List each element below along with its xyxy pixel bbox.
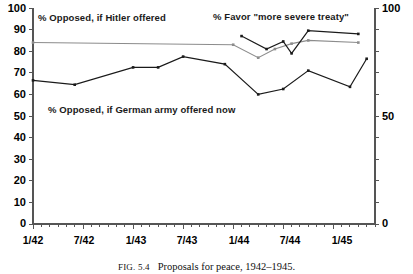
data-point — [182, 55, 185, 58]
figure-container: 100 90 80 70 60 50 40 30 20 10 0 100 50 … — [0, 0, 413, 274]
data-point — [73, 83, 76, 86]
data-point — [307, 29, 310, 32]
data-point — [307, 69, 310, 72]
y-tick-left-30: 30 — [0, 153, 26, 165]
figure-number: FIG. 5.4 — [118, 262, 150, 272]
y-tick-left-60: 60 — [0, 88, 26, 100]
data-point — [274, 48, 277, 51]
data-point — [232, 43, 235, 46]
y-tick-left-70: 70 — [0, 66, 26, 78]
y-tick-right-50: 50 — [382, 110, 412, 122]
data-point — [132, 66, 135, 69]
x-tick-7-42: 7/42 — [64, 234, 104, 246]
data-point — [257, 93, 260, 96]
data-point — [257, 56, 260, 59]
series-label-favor: % Favor "more severe treaty" — [213, 11, 349, 22]
y-tick-left-10: 10 — [0, 196, 26, 208]
series-line-0 — [33, 40, 358, 57]
data-point — [290, 42, 293, 45]
series-label-hitler: % Opposed, if Hitler offered — [38, 12, 166, 23]
chart-canvas — [0, 0, 413, 274]
y-tick-left-40: 40 — [0, 131, 26, 143]
x-tick-1-42: 1/42 — [13, 234, 53, 246]
y-tick-left-100: 100 — [0, 2, 26, 14]
data-point — [357, 41, 360, 44]
data-point — [349, 86, 352, 89]
x-tick-7-43: 7/43 — [167, 234, 207, 246]
data-point — [290, 52, 293, 55]
data-point — [357, 33, 360, 36]
x-tick-1-44: 1/44 — [219, 234, 259, 246]
x-tick-1-45: 1/45 — [322, 234, 362, 246]
y-tick-right-0: 0 — [382, 217, 412, 229]
series-label-german-army: % Opposed, if German army offered now — [48, 104, 235, 115]
y-tick-left-20: 20 — [0, 174, 26, 186]
data-point — [282, 40, 285, 43]
data-point — [224, 63, 227, 66]
y-tick-left-80: 80 — [0, 45, 26, 57]
x-tick-1-43: 1/43 — [116, 234, 156, 246]
data-point — [157, 66, 160, 69]
data-point — [32, 41, 35, 44]
series-line-2 — [33, 57, 367, 95]
data-point — [282, 88, 285, 91]
data-point — [240, 35, 243, 38]
data-point — [265, 48, 268, 51]
y-tick-left-50: 50 — [0, 110, 26, 122]
y-tick-left-0: 0 — [0, 217, 26, 229]
figure-caption: FIG. 5.4 Proposals for peace, 1942–1945. — [0, 261, 413, 272]
figure-caption-text: Proposals for peace, 1942–1945. — [158, 261, 295, 272]
y-tick-left-90: 90 — [0, 23, 26, 35]
y-tick-right-100: 100 — [382, 2, 412, 14]
x-tick-7-44: 7/44 — [270, 234, 310, 246]
data-point — [365, 57, 368, 60]
data-point — [307, 39, 310, 42]
data-point — [32, 79, 35, 82]
